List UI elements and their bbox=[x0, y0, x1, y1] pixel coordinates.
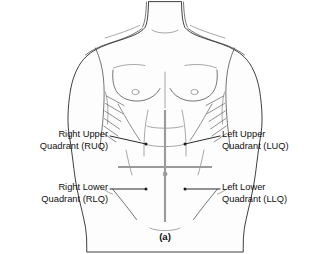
label-llq-line1: Left Lower bbox=[222, 181, 326, 193]
figure-caption: (a) bbox=[0, 231, 330, 242]
label-luq-line2: Quadrant (LUQ) bbox=[222, 140, 326, 152]
neck-left-line bbox=[143, 2, 147, 27]
neck-right-line bbox=[184, 2, 188, 27]
label-rlq-line2: Quadrant (RLQ) bbox=[8, 193, 108, 205]
leader-endpoint-llq bbox=[184, 188, 187, 191]
torso-illustration bbox=[0, 0, 330, 254]
label-right-upper-quadrant: Right Upper Quadrant (RUQ) bbox=[8, 128, 108, 152]
label-luq-line1: Left Upper bbox=[222, 128, 326, 140]
label-left-lower-quadrant: Left Lower Quadrant (LLQ) bbox=[222, 181, 326, 205]
label-ruq-line1: Right Upper bbox=[8, 128, 108, 140]
leader-endpoint-ruq bbox=[145, 143, 148, 146]
label-rlq-line1: Right Lower bbox=[8, 181, 108, 193]
label-ruq-line2: Quadrant (RUQ) bbox=[8, 140, 108, 152]
abdominal-quadrants-figure: Right Upper Quadrant (RUQ) Right Lower Q… bbox=[0, 0, 330, 254]
label-right-lower-quadrant: Right Lower Quadrant (RLQ) bbox=[8, 181, 108, 205]
leader-endpoint-rlq bbox=[145, 188, 148, 191]
label-left-upper-quadrant: Left Upper Quadrant (LUQ) bbox=[222, 128, 326, 152]
label-llq-line2: Quadrant (LLQ) bbox=[222, 193, 326, 205]
leader-endpoint-luq bbox=[184, 143, 187, 146]
